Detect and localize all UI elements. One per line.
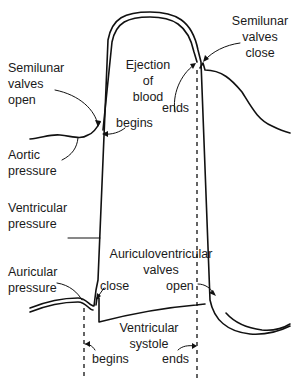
- label-line: pressure: [8, 280, 57, 296]
- label-line: pressure: [8, 216, 67, 232]
- label-line: Ventricular: [110, 320, 188, 336]
- ejection-of-blood-label: Ejection of blood: [118, 57, 178, 105]
- av-valves-label: Auriculoventricular valves: [96, 246, 226, 278]
- systole-begins-label: begins: [92, 351, 129, 367]
- av-open-label: open: [166, 278, 194, 294]
- label-line: open: [8, 92, 64, 108]
- label-line: close: [224, 45, 296, 61]
- ventricular-systole-label: Ventricular systole: [110, 320, 188, 352]
- auricular-pressure-curve-right: [226, 313, 290, 330]
- label-line: Ejection: [118, 57, 178, 73]
- label-line: Semilunar: [8, 60, 64, 76]
- label-line: Auricular: [8, 264, 57, 280]
- aortic-pressure-label: Aortic pressure: [8, 147, 57, 179]
- label-line: valves: [96, 262, 226, 278]
- arrowhead-icon: [102, 131, 108, 137]
- aortic-pressure-curve-left: [30, 122, 100, 139]
- av-close-label: close: [100, 278, 129, 294]
- label-line: Auriculoventricular: [96, 246, 226, 262]
- systole-ends-label: ends: [162, 351, 189, 367]
- label-line: systole: [110, 336, 188, 352]
- cardiac-cycle-diagram: Semilunar valves open Ejection of blood …: [0, 0, 304, 379]
- ejection-ends-label: ends: [162, 100, 189, 116]
- label-line: Semilunar: [224, 13, 296, 29]
- label-line: valves: [224, 29, 296, 45]
- arrowhead-icon: [85, 341, 90, 347]
- label-line: valves: [8, 76, 64, 92]
- arrowhead-icon: [192, 343, 197, 349]
- ejection-begins-label: begins: [116, 115, 153, 131]
- aortic-leader: [62, 138, 78, 160]
- arrowhead-icon: [203, 55, 209, 62]
- label-line: Ventricular: [8, 200, 67, 216]
- aortic-pressure-curve-right: [200, 63, 290, 133]
- ventricular-systole-baseline: [96, 298, 205, 322]
- label-line: of: [118, 73, 178, 89]
- auricular-pressure-label: Auricular pressure: [8, 264, 57, 296]
- semilunar-close-label: Semilunar valves close: [224, 13, 296, 61]
- semilunar-open-label: Semilunar valves open: [8, 60, 64, 108]
- label-line: Aortic: [8, 147, 57, 163]
- label-line: pressure: [8, 163, 57, 179]
- ventricular-pressure-label: Ventricular pressure: [8, 200, 67, 232]
